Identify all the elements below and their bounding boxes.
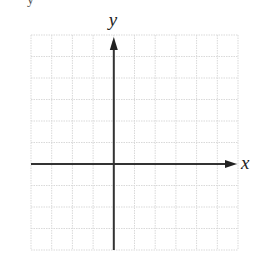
y-axis-arrow-icon	[110, 37, 118, 50]
x-axis-arrow-icon	[225, 160, 237, 168]
grid-lines	[31, 35, 238, 250]
coordinate-plane: y x y	[0, 0, 264, 274]
cropped-label-fragment: y	[27, 0, 34, 8]
grid-svg	[0, 0, 264, 274]
y-axis-label: y	[109, 10, 117, 29]
x-axis-label: x	[241, 153, 249, 172]
